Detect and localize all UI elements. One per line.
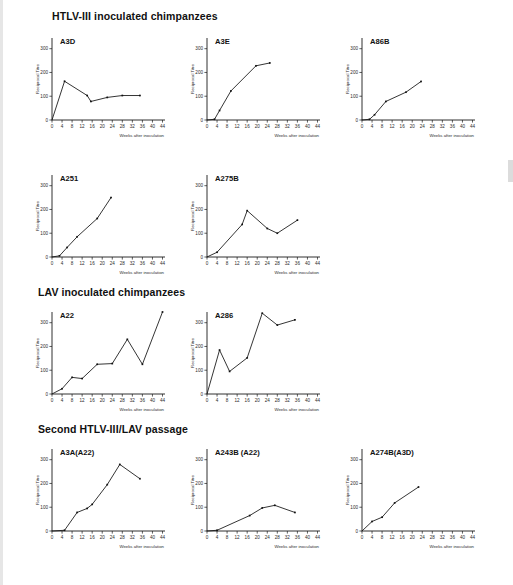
svg-text:36: 36 bbox=[295, 535, 301, 540]
data-point bbox=[405, 91, 407, 93]
svg-text:28: 28 bbox=[120, 398, 126, 403]
data-point bbox=[261, 312, 263, 314]
svg-text:200: 200 bbox=[195, 70, 203, 75]
svg-text:200: 200 bbox=[40, 344, 48, 349]
data-point bbox=[71, 377, 73, 379]
svg-text:8: 8 bbox=[226, 124, 229, 129]
svg-text:300: 300 bbox=[195, 457, 203, 462]
page-edge-strip-right bbox=[508, 160, 513, 182]
svg-text:24: 24 bbox=[110, 398, 116, 403]
svg-text:16: 16 bbox=[400, 535, 406, 540]
svg-text:0: 0 bbox=[45, 529, 48, 534]
x-axis-title: Weeks after inoculation bbox=[429, 133, 474, 138]
data-point bbox=[86, 508, 88, 510]
svg-text:0: 0 bbox=[355, 118, 358, 123]
svg-text:16: 16 bbox=[90, 124, 96, 129]
data-point bbox=[276, 324, 278, 326]
data-point bbox=[394, 502, 396, 504]
data-point bbox=[255, 65, 257, 67]
svg-text:32: 32 bbox=[130, 398, 136, 403]
data-points bbox=[216, 210, 298, 253]
data-point bbox=[162, 311, 164, 313]
svg-text:28: 28 bbox=[275, 398, 281, 403]
svg-text:24: 24 bbox=[265, 535, 271, 540]
data-point bbox=[76, 512, 78, 514]
svg-text:44: 44 bbox=[315, 261, 321, 266]
panel-title: A286 bbox=[215, 311, 233, 320]
data-point bbox=[59, 255, 61, 257]
x-axis-ticks: 048121620242832364044 bbox=[206, 531, 321, 540]
svg-text:36: 36 bbox=[140, 398, 146, 403]
panel-title: A274B(A3D) bbox=[370, 448, 414, 457]
y-axis-title: Reciprocal Titre bbox=[345, 63, 350, 93]
svg-text:16: 16 bbox=[245, 535, 251, 540]
svg-text:8: 8 bbox=[71, 398, 74, 403]
svg-text:20: 20 bbox=[255, 124, 261, 129]
panel-chart-a86b: 0100200300048121620242832364044Weeks aft… bbox=[338, 26, 481, 144]
svg-text:200: 200 bbox=[195, 344, 203, 349]
data-point bbox=[276, 232, 278, 234]
svg-text:0: 0 bbox=[51, 124, 54, 129]
svg-text:28: 28 bbox=[275, 261, 281, 266]
data-point bbox=[106, 97, 108, 99]
data-series-line bbox=[207, 313, 295, 394]
svg-text:0: 0 bbox=[206, 535, 209, 540]
data-series-line bbox=[52, 198, 111, 257]
svg-text:44: 44 bbox=[315, 124, 321, 129]
svg-text:16: 16 bbox=[245, 261, 251, 266]
svg-text:0: 0 bbox=[206, 261, 209, 266]
data-point bbox=[297, 219, 299, 221]
page-edge-strip-left bbox=[0, 0, 3, 585]
svg-text:100: 100 bbox=[195, 231, 203, 236]
svg-text:4: 4 bbox=[371, 124, 374, 129]
svg-text:40: 40 bbox=[150, 124, 156, 129]
svg-text:32: 32 bbox=[130, 261, 136, 266]
data-points bbox=[64, 464, 141, 532]
svg-text:44: 44 bbox=[160, 124, 166, 129]
x-axis-ticks: 048121620242832364044 bbox=[51, 120, 166, 129]
svg-text:24: 24 bbox=[110, 124, 116, 129]
svg-text:8: 8 bbox=[226, 261, 229, 266]
svg-text:44: 44 bbox=[315, 535, 321, 540]
data-point bbox=[111, 363, 113, 365]
svg-text:4: 4 bbox=[371, 535, 374, 540]
svg-text:36: 36 bbox=[140, 124, 146, 129]
svg-text:100: 100 bbox=[195, 94, 203, 99]
svg-text:200: 200 bbox=[350, 481, 358, 486]
svg-text:44: 44 bbox=[160, 261, 166, 266]
data-point bbox=[66, 247, 68, 249]
panel-chart-a275b: 0100200300048121620242832364044Weeks aft… bbox=[183, 163, 326, 281]
x-axis-title: Weeks after inoculation bbox=[119, 544, 164, 549]
x-axis-title: Weeks after inoculation bbox=[119, 407, 164, 412]
data-point bbox=[418, 486, 420, 488]
svg-text:36: 36 bbox=[140, 261, 146, 266]
data-point bbox=[91, 504, 93, 506]
svg-text:32: 32 bbox=[440, 535, 446, 540]
y-axis-title: Reciprocal Titre bbox=[190, 200, 195, 230]
x-axis-ticks: 048121620242832364044 bbox=[361, 531, 476, 540]
svg-text:16: 16 bbox=[90, 535, 96, 540]
x-axis-title: Weeks after inoculation bbox=[119, 133, 164, 138]
data-point bbox=[294, 512, 296, 514]
svg-text:12: 12 bbox=[80, 535, 86, 540]
svg-text:16: 16 bbox=[245, 124, 251, 129]
data-point bbox=[76, 236, 78, 238]
svg-text:36: 36 bbox=[450, 535, 456, 540]
x-axis-ticks: 048121620242832364044 bbox=[51, 531, 166, 540]
section-htlv3-header: HTLV-III inoculated chimpanzees bbox=[52, 10, 218, 22]
svg-text:28: 28 bbox=[120, 535, 126, 540]
y-axis-title: Reciprocal Titre bbox=[35, 337, 40, 367]
svg-text:24: 24 bbox=[265, 124, 271, 129]
svg-text:0: 0 bbox=[206, 398, 209, 403]
svg-text:32: 32 bbox=[285, 398, 291, 403]
data-point bbox=[86, 95, 88, 97]
svg-text:12: 12 bbox=[80, 261, 86, 266]
svg-text:200: 200 bbox=[40, 481, 48, 486]
y-axis-title: Reciprocal Titre bbox=[345, 474, 350, 504]
data-point bbox=[385, 101, 387, 103]
data-point bbox=[96, 218, 98, 220]
data-point bbox=[261, 507, 263, 509]
data-series-line bbox=[52, 81, 140, 120]
y-axis-title: Reciprocal Titre bbox=[35, 63, 40, 93]
data-series-line bbox=[207, 63, 270, 120]
